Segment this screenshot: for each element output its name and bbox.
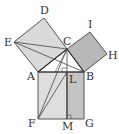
- label-c: C: [63, 35, 71, 48]
- label-i: I: [88, 18, 92, 31]
- square-bcih: [67, 32, 107, 72]
- label-b: B: [86, 70, 94, 83]
- right-angle-l: [62, 68, 67, 72]
- label-g: G: [85, 117, 94, 130]
- label-m: M: [62, 120, 73, 133]
- label-e: E: [4, 36, 12, 49]
- pythagorean-diagram: D E C I H A L B F M G: [0, 0, 119, 134]
- label-a: A: [26, 70, 36, 83]
- label-h: H: [108, 49, 118, 62]
- label-l: L: [69, 73, 77, 86]
- label-d: D: [40, 4, 49, 17]
- label-f: F: [28, 117, 36, 130]
